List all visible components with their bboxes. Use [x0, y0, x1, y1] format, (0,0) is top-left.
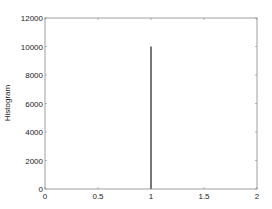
x-tick-label: 0.5 [92, 192, 104, 201]
y-tick-label: 8000 [25, 71, 43, 80]
histogram-chart: 020004000600080001000012000 00.511.52 Hi… [0, 0, 272, 209]
y-tick-label: 2000 [25, 157, 43, 166]
x-tick-label: 1.5 [198, 192, 210, 201]
y-tick-label: 4000 [25, 128, 43, 137]
y-tick-label: 10000 [21, 43, 44, 52]
y-axis-label: Histogram [3, 84, 12, 121]
histogram-bar [150, 47, 152, 190]
histogram-bars [150, 47, 152, 190]
x-tick-label: 0 [43, 192, 48, 201]
x-tick-label: 2 [255, 192, 260, 201]
x-tick-label: 1 [149, 192, 154, 201]
y-tick-label: 12000 [21, 14, 44, 23]
y-tick-label: 6000 [25, 100, 43, 109]
y-axis-ticks: 020004000600080001000012000 [21, 14, 257, 194]
